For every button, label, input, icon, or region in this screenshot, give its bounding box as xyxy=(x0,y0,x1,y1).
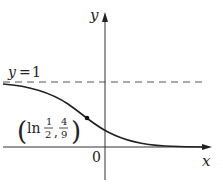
point-label-close-paren: ) xyxy=(71,116,81,146)
asymptote-label-eq: = xyxy=(19,64,31,80)
inflection-point xyxy=(85,116,90,121)
y-axis-arrow-icon xyxy=(102,12,108,22)
point-label-x-den: 2 xyxy=(45,129,51,140)
asymptote-label-var: y xyxy=(7,64,17,80)
point-label-y-num: 4 xyxy=(61,116,67,127)
point-label-open-paren: ( xyxy=(17,116,27,146)
point-label-fn: ln xyxy=(27,120,41,136)
asymptote-label-val: 1 xyxy=(32,64,41,80)
graph-canvas: y x 0 y = 1 ( ln 1 2 , 4 9 ) xyxy=(0,0,223,190)
y-axis-label: y xyxy=(89,6,99,24)
x-axis-label: x xyxy=(202,152,211,170)
point-label-comma: , xyxy=(54,125,58,139)
origin-label: 0 xyxy=(92,149,101,165)
point-label-y-den: 9 xyxy=(61,129,67,140)
point-label-x-num: 1 xyxy=(46,116,52,127)
